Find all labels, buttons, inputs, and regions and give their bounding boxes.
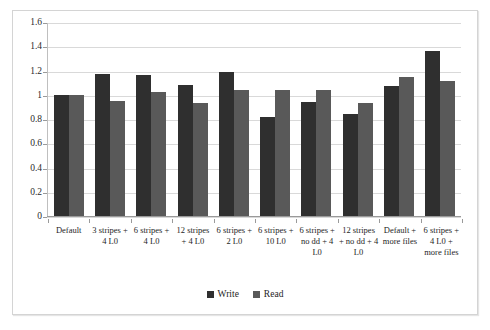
bar-group <box>89 23 130 216</box>
bar-write <box>384 86 399 216</box>
x-axis-labels: Default3 stripes + 4 L06 stripes + 4 L01… <box>48 219 462 258</box>
bar-group <box>254 23 295 216</box>
chart-container: 1.61.41.210.80.60.40.20 Default3 stripes… <box>12 10 478 315</box>
bar-write <box>178 85 193 216</box>
x-tick-mark <box>338 219 339 223</box>
x-axis-label: 12 stripes + 4 L0 <box>172 219 213 258</box>
bar-group <box>172 23 213 216</box>
x-axis-label: 12 stripes + no dd + 4 L0 <box>338 219 379 258</box>
legend-swatch-icon <box>253 291 260 298</box>
bar-write <box>343 114 358 216</box>
y-tick-label: 0.6 <box>30 140 42 150</box>
legend-label: Write <box>218 289 239 299</box>
bar-write <box>54 95 69 216</box>
bar-group <box>48 23 89 216</box>
bar-group <box>131 23 172 216</box>
bar-read <box>440 81 455 216</box>
bars-layer <box>48 23 461 216</box>
x-tick-mark <box>462 219 463 223</box>
x-tick-mark <box>131 219 132 223</box>
bar-read <box>316 90 331 216</box>
bar-write <box>425 51 440 216</box>
bar-read <box>151 92 166 216</box>
x-tick-mark <box>48 219 49 223</box>
bar-group <box>213 23 254 216</box>
x-axis-label: 6 stripes + no dd + 4 L0 <box>296 219 337 258</box>
x-axis-line <box>47 216 461 217</box>
bar-read <box>275 90 290 216</box>
bar-write <box>219 72 234 216</box>
gridline <box>47 217 461 218</box>
y-tick-label: 1.2 <box>30 67 42 77</box>
chart-legend: WriteRead <box>13 289 477 299</box>
y-tick-label: 0.8 <box>30 115 42 125</box>
bar-read <box>358 103 373 216</box>
x-tick-mark <box>421 219 422 223</box>
bar-read <box>69 95 84 216</box>
x-axis-label: 6 stripes + 4 L0 + more files <box>421 219 462 258</box>
y-tick-label: 0.4 <box>30 164 42 174</box>
x-axis-label: Default + more files <box>379 219 420 258</box>
bar-group <box>337 23 378 216</box>
bar-group <box>378 23 419 216</box>
bar-write <box>260 117 275 216</box>
x-tick-mark <box>255 219 256 223</box>
y-tick-label: 0 <box>37 212 42 222</box>
y-tick-label: 0.2 <box>30 188 42 198</box>
y-tick-label: 1.6 <box>30 18 42 28</box>
bar-read <box>110 101 125 216</box>
x-tick-mark <box>172 219 173 223</box>
x-axis-label: Default <box>48 219 89 258</box>
x-tick-mark <box>89 219 90 223</box>
x-tick-mark <box>214 219 215 223</box>
bar-read <box>399 77 414 216</box>
bar-write <box>301 102 316 216</box>
y-tick-mark <box>43 217 47 218</box>
bar-write <box>136 75 151 216</box>
x-axis-label: 6 stripes + 10 L0 <box>255 219 296 258</box>
x-axis-label: 3 stripes + 4 L0 <box>89 219 130 258</box>
bar-read <box>234 90 249 216</box>
x-axis-label: 6 stripes + 2 L0 <box>214 219 255 258</box>
legend-label: Read <box>264 289 284 299</box>
x-axis-label: 6 stripes + 4 L0 <box>131 219 172 258</box>
legend-swatch-icon <box>207 291 214 298</box>
bar-group <box>296 23 337 216</box>
x-tick-mark <box>379 219 380 223</box>
bar-group <box>420 23 461 216</box>
x-tick-mark <box>296 219 297 223</box>
bar-read <box>193 103 208 216</box>
legend-item-write[interactable]: Write <box>207 289 239 299</box>
legend-item-read[interactable]: Read <box>253 289 284 299</box>
y-tick-label: 1.4 <box>30 43 42 53</box>
bar-write <box>95 74 110 216</box>
plot-area: 1.61.41.210.80.60.40.20 <box>47 23 461 217</box>
y-tick-label: 1 <box>37 91 42 101</box>
